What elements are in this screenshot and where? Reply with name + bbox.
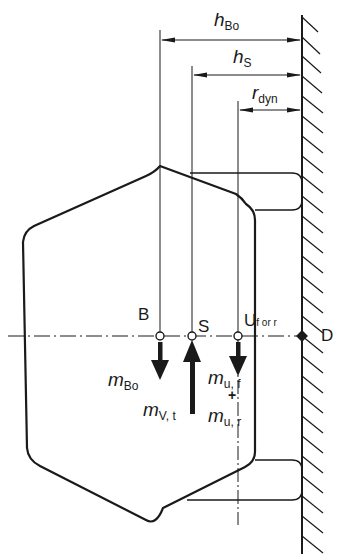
reference-lines [160,30,238,525]
label-point-u: Uf or r [244,312,277,329]
subscript: u, r [224,415,241,429]
ground-wall [302,15,323,554]
tire-profile [23,166,255,522]
symbol: U [244,311,256,330]
label-m-ur: mu, r [208,406,241,425]
diagram-drawing [0,0,344,554]
subscript: Bo [225,19,240,33]
label-point-s: S [198,318,209,335]
tire-diagram: hBo hS rdyn B S Uf or r D mBo mV, t mu, … [0,0,344,554]
subscript: S [244,56,252,70]
subscript: dyn [258,92,277,106]
subscript: Bo [124,379,139,393]
label-r-dyn: rdyn [252,83,278,102]
label-h-s: hS [233,47,252,66]
label-m-uf: mu, f [208,368,241,387]
label-point-b: B [138,306,149,323]
symbol: m [208,367,224,388]
symbol: m [143,399,159,420]
symbol: h [233,46,244,67]
subscript: f or r [256,317,277,328]
label-h-bo: hBo [214,10,239,29]
label-point-d: D [321,327,333,344]
label-m-bo: mBo [108,370,139,389]
dimension-arrows [162,40,300,110]
symbol: m [208,405,224,426]
symbol: h [214,9,225,30]
symbol: m [108,369,124,390]
label-plus: + [228,388,236,402]
subscript: V, t [159,409,176,423]
label-m-vt: mV, t [143,400,176,419]
